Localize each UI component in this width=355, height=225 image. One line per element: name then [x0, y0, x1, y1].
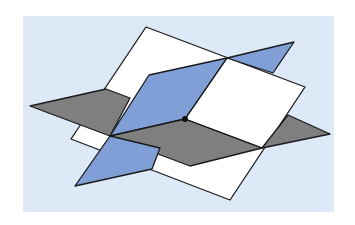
intersection-point — [182, 116, 188, 122]
diagram-stage — [0, 0, 355, 225]
three-planes-diagram — [0, 0, 355, 225]
